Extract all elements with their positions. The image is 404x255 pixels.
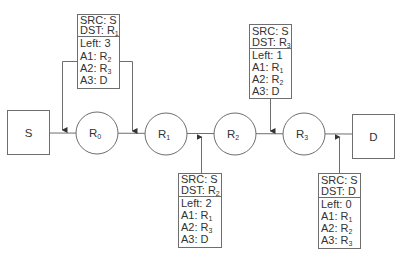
packet-hop: A3: D [252, 85, 280, 97]
router-label: R [158, 128, 166, 140]
packet-header-2: SRC: S DST: R2 Left: 2 A1: R1 A2: R3 A3:… [179, 173, 222, 248]
router-subscript: 1 [166, 134, 170, 141]
router-subscript: 2 [235, 134, 239, 141]
packet-header-1: SRC: S DST: R1 Left: 3 A1: R2 A2: R3 A3:… [78, 14, 120, 89]
packet-left: Left: 2 [181, 197, 212, 209]
packet-left: Left: 3 [80, 37, 111, 49]
connector-packet-1-right [119, 62, 133, 132]
packet-hop: A1: R [321, 210, 349, 222]
destination-label: D [369, 131, 377, 143]
svg-text:DST: R2: DST: R2 [181, 184, 220, 197]
packet-left: Left: 0 [321, 198, 352, 210]
packet-hop: A2: R [80, 62, 108, 74]
router-label: R [89, 127, 97, 139]
packet-hop: A3: D [181, 233, 209, 245]
router-label: R [227, 128, 235, 140]
routing-diagram: S R0 R1 R2 R3 D SRC: S DST: R1 Left: 3 A… [0, 0, 404, 255]
svg-text:A3: D: A3: D [181, 233, 209, 245]
packet-header-4: SRC: S DST: D Left: 0 A1: R1 A2: R2 A3: … [319, 174, 361, 249]
svg-text:DST: R1: DST: R1 [80, 24, 119, 37]
router-subscript: 3 [304, 134, 308, 141]
svg-text:A3: D: A3: D [80, 74, 108, 86]
packet-hop: A2: R [321, 222, 349, 234]
packet-hop: A1: R [80, 50, 108, 62]
packet-dst: DST: R [80, 24, 115, 36]
packet-hop: A1: R [252, 61, 280, 73]
svg-text:A3: R3: A3: R3 [321, 234, 353, 247]
packet-hop: A1: R [181, 209, 209, 221]
svg-text:DST: R3: DST: R3 [252, 36, 291, 49]
packet-header-3: SRC: S DST: R3 Left: 1 A1: R1 A2: R2 A3:… [250, 25, 292, 99]
packet-hop: A2: R [252, 73, 280, 85]
svg-text:A3: D: A3: D [252, 85, 280, 97]
packet-dst: DST: R [181, 184, 216, 196]
packet-hop: A3: R [321, 234, 349, 246]
packet-hop: A3: D [80, 74, 108, 86]
router-r0: R0 [76, 112, 118, 154]
router-r1: R1 [145, 113, 187, 155]
packet-dst: DST: R [252, 36, 287, 48]
source-node: S [8, 111, 50, 155]
router-subscript: 0 [97, 133, 101, 140]
svg-text:DST: D: DST: D [321, 185, 356, 197]
source-label: S [25, 127, 33, 139]
router-r3: R3 [283, 113, 325, 155]
router-r2: R2 [214, 113, 256, 155]
packet-hop: A2: R [181, 221, 209, 233]
destination-node: D [353, 115, 395, 159]
connector-packet-1-left [63, 62, 78, 131]
packet-left: Left: 1 [252, 49, 283, 61]
packet-dst: DST: D [321, 185, 356, 197]
router-label: R [296, 128, 304, 140]
